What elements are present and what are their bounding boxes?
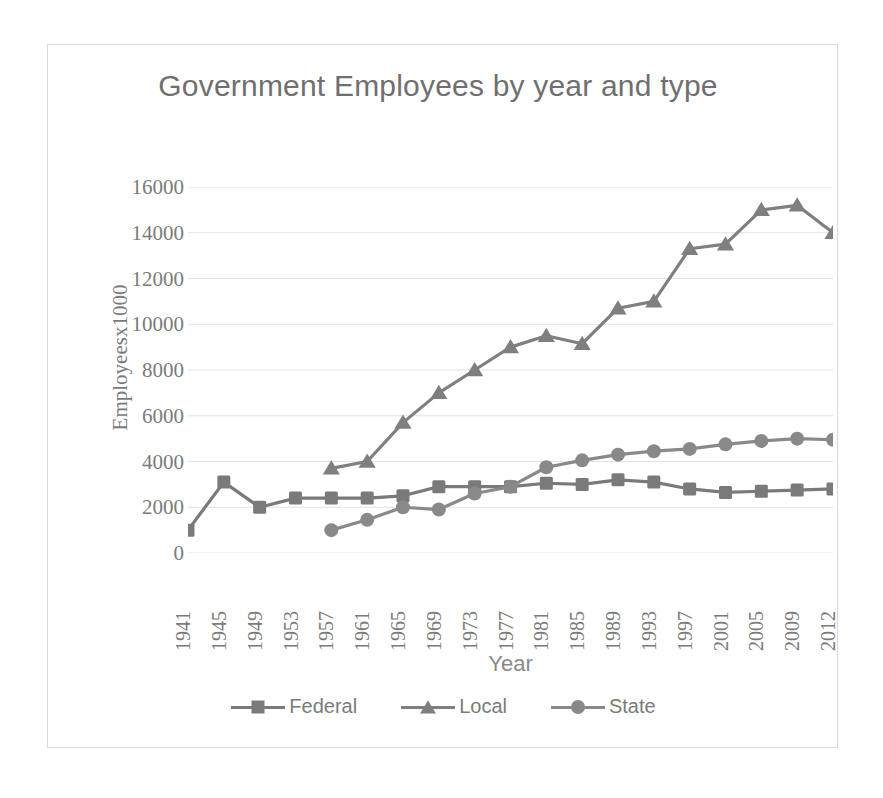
data-point-marker bbox=[253, 501, 266, 514]
y-axis-tick-label: 16000 bbox=[94, 175, 184, 200]
y-axis-tick-labels: 1600014000120001000080006000400020000 bbox=[88, 187, 184, 553]
x-axis-tick-label: 1957 bbox=[315, 611, 338, 651]
x-axis-tick-label: 1969 bbox=[423, 611, 446, 651]
x-axis-tick-label: 1961 bbox=[351, 611, 374, 651]
legend-entry-state[interactable]: State bbox=[551, 695, 656, 718]
data-point-marker bbox=[683, 482, 696, 495]
data-point-marker bbox=[647, 476, 660, 489]
y-axis-tick-label: 0 bbox=[94, 541, 184, 566]
x-axis-tick-label: 2012 bbox=[817, 611, 840, 651]
y-axis-tick-label: 6000 bbox=[94, 403, 184, 428]
x-axis-tick-label: 1973 bbox=[459, 611, 482, 651]
legend-swatch-local bbox=[401, 698, 455, 716]
x-axis-tick-labels: 1941194519491953195719611965196919731977… bbox=[188, 561, 833, 651]
data-point-marker bbox=[504, 480, 518, 494]
data-point-marker bbox=[430, 385, 447, 399]
legend-swatch-federal bbox=[231, 698, 285, 716]
data-point-marker bbox=[645, 293, 662, 307]
x-axis-tick-label: 1981 bbox=[530, 611, 553, 651]
data-point-marker bbox=[188, 524, 195, 537]
data-point-marker bbox=[361, 492, 374, 505]
data-point-marker bbox=[611, 448, 625, 462]
data-point-marker bbox=[612, 473, 625, 486]
data-point-marker bbox=[789, 197, 806, 211]
data-point-marker bbox=[396, 500, 410, 514]
data-point-marker bbox=[432, 503, 446, 517]
x-axis-title: Year bbox=[188, 651, 833, 677]
legend-marker-circle-icon bbox=[571, 700, 585, 714]
data-point-marker bbox=[324, 523, 338, 537]
legend-label: Federal bbox=[289, 695, 357, 718]
legend-label: Local bbox=[459, 695, 507, 718]
data-point-marker bbox=[432, 480, 445, 493]
x-axis-tick-label: 2005 bbox=[745, 611, 768, 651]
x-axis-tick-label: 2009 bbox=[781, 611, 804, 651]
plot-area bbox=[188, 187, 833, 553]
legend-entry-local[interactable]: Local bbox=[401, 695, 507, 718]
data-point-marker bbox=[539, 460, 553, 474]
chart-frame: Government Employees by year and type Em… bbox=[47, 44, 838, 748]
y-axis-tick-label: 8000 bbox=[94, 358, 184, 383]
data-point-marker bbox=[575, 453, 589, 467]
series-layer bbox=[188, 187, 833, 553]
y-axis-tick-label: 14000 bbox=[94, 220, 184, 245]
series-local bbox=[323, 197, 833, 474]
data-point-marker bbox=[289, 492, 302, 505]
y-axis-tick-label: 12000 bbox=[94, 266, 184, 291]
data-point-marker bbox=[468, 487, 482, 501]
data-point-marker bbox=[719, 437, 733, 451]
legend-marker-square-icon bbox=[252, 700, 265, 713]
x-axis-tick-label: 1953 bbox=[280, 611, 303, 651]
data-point-marker bbox=[791, 484, 804, 497]
data-point-marker bbox=[755, 485, 768, 498]
data-point-marker bbox=[683, 442, 697, 456]
x-axis-tick-label: 1977 bbox=[495, 611, 518, 651]
x-axis-tick-label: 1941 bbox=[172, 611, 195, 651]
data-point-marker bbox=[826, 433, 833, 447]
x-axis-tick-label: 1965 bbox=[387, 611, 410, 651]
x-axis-tick-label: 1989 bbox=[602, 611, 625, 651]
legend-entry-federal[interactable]: Federal bbox=[231, 695, 357, 718]
x-axis-tick-label: 1949 bbox=[244, 611, 267, 651]
y-axis-tick-label: 2000 bbox=[94, 495, 184, 520]
x-axis-tick-label: 2001 bbox=[710, 611, 733, 651]
data-point-marker bbox=[540, 477, 553, 490]
chart-legend: FederalLocalState bbox=[48, 695, 839, 718]
chart-title: Government Employees by year and type bbox=[108, 65, 768, 107]
data-point-marker bbox=[754, 434, 768, 448]
x-axis-tick-label: 1945 bbox=[208, 611, 231, 651]
legend-label: State bbox=[609, 695, 656, 718]
data-point-marker bbox=[827, 482, 834, 495]
data-point-marker bbox=[360, 513, 374, 527]
data-point-marker bbox=[538, 328, 555, 342]
data-point-marker bbox=[719, 486, 732, 499]
data-point-marker bbox=[217, 476, 230, 489]
data-point-marker bbox=[576, 478, 589, 491]
data-point-marker bbox=[466, 362, 483, 376]
legend-marker-triangle-icon bbox=[420, 700, 436, 713]
x-axis-tick-label: 1985 bbox=[566, 611, 589, 651]
data-point-marker bbox=[790, 432, 804, 446]
y-axis-tick-label: 4000 bbox=[94, 449, 184, 474]
data-point-marker bbox=[325, 492, 338, 505]
x-axis-tick-label: 1993 bbox=[638, 611, 661, 651]
x-axis-tick-label: 1997 bbox=[674, 611, 697, 651]
legend-swatch-state bbox=[551, 698, 605, 716]
y-axis-tick-label: 10000 bbox=[94, 312, 184, 337]
data-point-marker bbox=[647, 444, 661, 458]
